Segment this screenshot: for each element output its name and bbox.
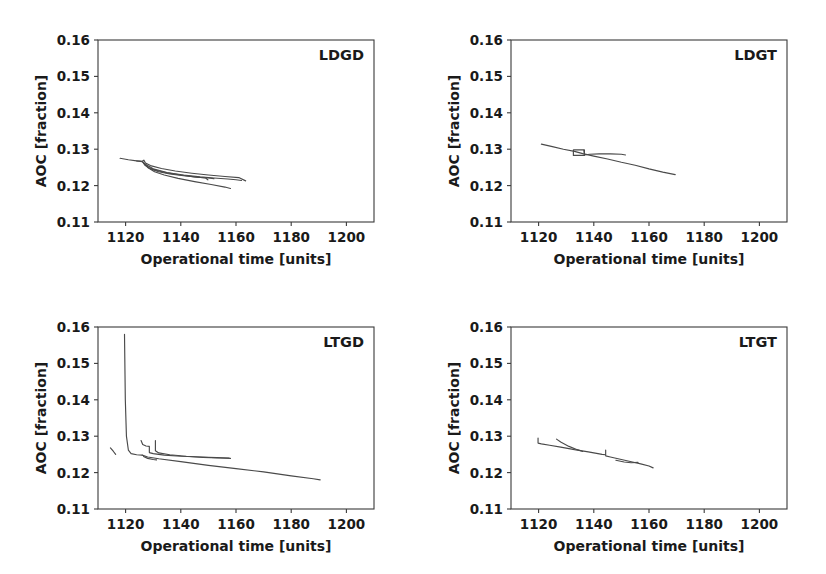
plot-frame — [511, 40, 787, 222]
subplot-ltgd: 0.110.120.130.140.150.161120114011601180… — [0, 287, 413, 574]
y-axis-label: AOC [fraction] — [33, 362, 49, 475]
x-tick-label: 1180 — [272, 229, 310, 245]
y-tick-label: 0.16 — [57, 319, 90, 335]
y-tick-label: 0.13 — [470, 428, 503, 444]
subplot-ltgt: 0.110.120.130.140.150.161120114011601180… — [413, 287, 826, 574]
y-tick-label: 0.15 — [57, 68, 90, 84]
x-tick-label: 1120 — [107, 229, 145, 245]
x-tick-label: 1140 — [575, 516, 613, 532]
y-tick-label: 0.11 — [470, 501, 503, 517]
subplot-title: LDGT — [734, 47, 777, 63]
plot-frame — [98, 327, 374, 509]
x-tick-label: 1120 — [520, 516, 558, 532]
y-tick-label: 0.14 — [470, 392, 503, 408]
y-tick-label: 0.16 — [57, 32, 90, 48]
plot-frame — [98, 40, 374, 222]
figure-root: 0.110.120.130.140.150.161120114011601180… — [0, 0, 826, 574]
y-axis-label: AOC [fraction] — [33, 75, 49, 188]
data-trace — [538, 438, 605, 455]
data-trace — [125, 334, 143, 455]
y-tick-label: 0.11 — [57, 214, 90, 230]
x-tick-label: 1160 — [630, 229, 668, 245]
data-trace — [142, 455, 320, 480]
data-trace — [584, 150, 626, 155]
y-tick-label: 0.13 — [57, 428, 90, 444]
subplot-ldgt: 0.110.120.130.140.150.161120114011601180… — [413, 0, 826, 287]
x-axis-label: Operational time [units] — [141, 538, 332, 554]
y-tick-label: 0.12 — [57, 465, 90, 481]
y-tick-label: 0.16 — [470, 319, 503, 335]
x-tick-label: 1160 — [630, 516, 668, 532]
data-trace — [541, 144, 675, 175]
y-tick-label: 0.12 — [470, 178, 503, 194]
data-trace — [606, 450, 653, 468]
y-tick-label: 0.15 — [470, 68, 503, 84]
data-trace — [110, 448, 115, 455]
x-tick-label: 1180 — [685, 229, 723, 245]
x-tick-label: 1160 — [217, 516, 255, 532]
y-tick-label: 0.13 — [470, 141, 503, 157]
x-tick-label: 1200 — [741, 229, 779, 245]
y-tick-label: 0.14 — [57, 105, 90, 121]
y-tick-label: 0.11 — [470, 214, 503, 230]
subplot-title: LTGT — [739, 334, 777, 350]
data-trace — [141, 441, 229, 458]
y-tick-label: 0.15 — [470, 355, 503, 371]
x-tick-label: 1200 — [741, 516, 779, 532]
x-tick-label: 1120 — [107, 516, 145, 532]
x-tick-label: 1120 — [520, 229, 558, 245]
x-axis-label: Operational time [units] — [141, 251, 332, 267]
y-tick-label: 0.14 — [57, 392, 90, 408]
x-tick-label: 1180 — [272, 516, 310, 532]
x-tick-label: 1200 — [328, 516, 366, 532]
data-trace — [143, 162, 214, 179]
x-tick-label: 1200 — [328, 229, 366, 245]
y-tick-label: 0.11 — [57, 501, 90, 517]
data-trace — [557, 439, 583, 451]
plot-frame — [511, 327, 787, 509]
x-tick-label: 1140 — [162, 516, 200, 532]
y-tick-label: 0.14 — [470, 105, 503, 121]
x-tick-label: 1180 — [685, 516, 723, 532]
y-axis-label: AOC [fraction] — [446, 75, 462, 188]
y-tick-label: 0.13 — [57, 141, 90, 157]
y-tick-label: 0.16 — [470, 32, 503, 48]
x-axis-label: Operational time [units] — [554, 538, 745, 554]
y-axis-label: AOC [fraction] — [446, 362, 462, 475]
subplot-ldgd: 0.110.120.130.140.150.161120114011601180… — [0, 0, 413, 287]
y-tick-label: 0.12 — [470, 465, 503, 481]
subplot-title: LTGD — [323, 334, 364, 350]
x-tick-label: 1160 — [217, 229, 255, 245]
x-tick-label: 1140 — [162, 229, 200, 245]
x-tick-label: 1140 — [575, 229, 613, 245]
y-tick-label: 0.12 — [57, 178, 90, 194]
subplot-title: LDGD — [319, 47, 364, 63]
x-axis-label: Operational time [units] — [554, 251, 745, 267]
y-tick-label: 0.15 — [57, 355, 90, 371]
